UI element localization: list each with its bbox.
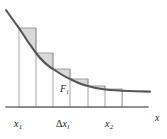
riemann-sum-figure: x1 Δxi x2 Fi x: [0, 0, 167, 139]
region-label-Fi: Fi: [60, 84, 68, 96]
tick-label-delta-x: Δxi: [56, 119, 69, 131]
axis-label-x: x: [155, 113, 159, 123]
tick-label-x2: x2: [105, 119, 113, 131]
tick-label-x1: x1: [14, 119, 22, 131]
figure-canvas: [0, 0, 167, 139]
